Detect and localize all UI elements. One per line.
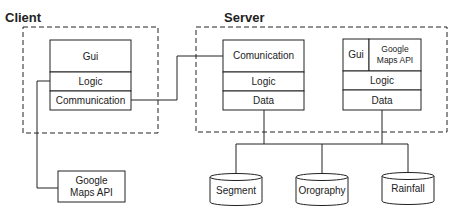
database-rainfall: Rainfall — [382, 173, 434, 205]
database-rainfall-label: Rainfall — [391, 183, 424, 194]
server-google-maps-line2: Maps API — [377, 55, 413, 65]
server-data-label-2: Data — [371, 95, 393, 106]
database-segment: Segment — [210, 174, 262, 206]
server-stack-1: Comunication Logic Data — [223, 40, 304, 110]
client-google-maps-line2: Maps API — [70, 187, 113, 198]
database-orography-label: Orography — [298, 185, 345, 196]
server-title: Server — [224, 10, 264, 25]
client-stack: Gui Logic Communication — [50, 40, 131, 110]
client-communication-label: Communication — [56, 95, 125, 106]
server-comunication-label: Comunication — [233, 50, 294, 61]
server-logic-label-2: Logic — [370, 75, 394, 86]
client-google-maps-line1: Google — [75, 175, 108, 186]
server-gui-label: Gui — [348, 49, 364, 60]
server-logic-label-1: Logic — [252, 76, 276, 87]
server-stack-2: Gui Google Maps API Logic Data — [343, 39, 421, 110]
database-connectors — [236, 110, 408, 174]
client-server-connector — [131, 56, 223, 100]
client-gui-label: Gui — [83, 51, 99, 62]
database-segment-label: Segment — [216, 185, 256, 196]
server-data-label-1: Data — [253, 95, 275, 106]
server-google-maps-line1: Google — [381, 44, 409, 54]
architecture-diagram: Client Gui Logic Communication Google Ma… — [0, 0, 466, 216]
client-title: Client — [5, 10, 42, 25]
database-orography: Orography — [296, 174, 348, 206]
client-logic-label: Logic — [79, 76, 103, 87]
